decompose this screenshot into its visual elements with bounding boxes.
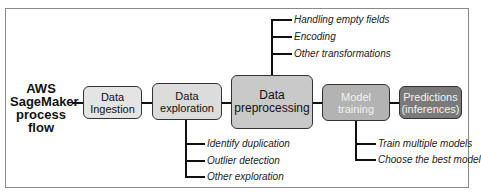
branch-label: Other exploration [207, 172, 284, 182]
branch-label: Encoding [294, 32, 336, 42]
branch-tick [185, 176, 205, 178]
branch-tick [271, 36, 292, 38]
step-label: (inferences) [401, 103, 459, 115]
connector-title-ingestion [72, 102, 83, 104]
connector-preprocessing-training [313, 102, 322, 104]
step-label: Ingestion [90, 103, 135, 115]
branch-trunk-training [355, 121, 357, 161]
branch-tick [271, 19, 292, 21]
branch-label: Outlier detection [207, 156, 280, 166]
connector-ingestion-exploration [142, 102, 152, 104]
step-predictions: Predictions(inferences) [399, 86, 462, 119]
branch-tick [271, 53, 292, 55]
step-data-preprocessing: Datapreprocessing [231, 75, 313, 129]
branch-label: Handling empty fields [294, 15, 390, 25]
step-label: Data [90, 91, 135, 103]
step-label: Model [338, 91, 374, 103]
title-line: flow [10, 121, 72, 134]
branch-label: Choose the best model [378, 155, 481, 165]
step-label: exploration [160, 102, 214, 114]
diagram-title: AWS SageMaker process flow [10, 82, 72, 134]
branch-tick [355, 143, 376, 145]
branch-tick [185, 143, 205, 145]
step-data-ingestion: DataIngestion [83, 86, 142, 119]
connector-exploration-preprocessing [222, 102, 231, 104]
step-data-exploration: Dataexploration [152, 83, 222, 120]
step-label: Data [160, 90, 214, 102]
branch-tick [185, 160, 205, 162]
step-label: preprocessing [234, 102, 309, 115]
connector-training-predictions [390, 102, 399, 104]
branch-trunk-exploration [185, 120, 187, 177]
step-label: Predictions [401, 91, 459, 103]
branch-tick [355, 159, 376, 161]
step-label: training [338, 103, 374, 115]
step-model-training: Modeltraining [322, 84, 390, 121]
branch-trunk-preprocessing [271, 19, 273, 75]
branch-label: Train multiple models [378, 139, 472, 149]
branch-label: Other transformations [294, 49, 391, 59]
branch-label: Identify duplication [207, 139, 290, 149]
